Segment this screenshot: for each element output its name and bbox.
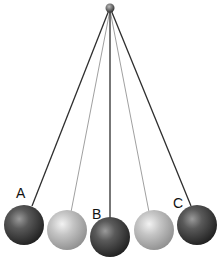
bob-mid-right xyxy=(134,210,174,250)
label-b: B xyxy=(92,206,101,222)
string-mid-right xyxy=(110,10,149,212)
pendulum-diagram: A B C xyxy=(0,0,221,266)
bob-b xyxy=(90,217,130,257)
strings xyxy=(32,10,191,218)
label-a: A xyxy=(16,185,26,201)
string-a xyxy=(32,10,109,206)
bob-c xyxy=(177,205,217,245)
string-mid-left xyxy=(71,10,110,212)
string-c xyxy=(111,10,191,206)
bob-a xyxy=(4,205,44,245)
label-c: C xyxy=(173,195,183,211)
pivot-point xyxy=(106,4,115,13)
bob-mid-left xyxy=(47,210,87,250)
